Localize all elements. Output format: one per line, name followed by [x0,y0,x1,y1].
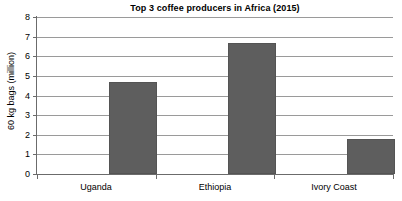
y-tick-label: 4 [16,92,30,101]
y-tick-mark [33,37,37,38]
y-tick-label: 8 [16,13,30,22]
y-tick-mark [33,56,37,57]
gridline [37,56,393,57]
bar-uganda [109,82,157,174]
gridline [37,37,393,38]
y-tick-mark [33,17,37,18]
y-tick-mark [33,76,37,77]
gridline [37,115,393,116]
gridline [37,96,393,97]
bar-ivory-coast [347,139,395,174]
chart-title: Top 3 coffee producers in Africa (2015) [37,3,393,14]
y-tick-label: 6 [16,52,30,61]
y-tick-mark [33,115,37,116]
bar-ethiopia [228,43,276,174]
x-tick-label: Ethiopia [165,182,265,193]
gridline [37,135,393,136]
y-tick-label: 3 [16,111,30,120]
x-tick-label: Ivory Coast [284,182,384,193]
y-tick-label: 5 [16,72,30,81]
x-tick-mark [37,175,38,179]
y-tick-label: 0 [16,170,30,179]
gridline [37,76,393,77]
y-tick-mark [33,154,37,155]
x-tick-mark [393,175,394,179]
y-axis-title: 60 kg bags (million) [6,16,16,166]
bar-chart: Top 3 coffee producers in Africa (2015) … [0,0,402,201]
plot-area [37,17,393,174]
gridline [37,154,393,155]
gridline [37,17,393,18]
y-tick-label: 2 [16,131,30,140]
y-tick-mark [33,135,37,136]
y-tick-label: 1 [16,150,30,159]
y-tick-label: 7 [16,33,30,42]
x-tick-label: Uganda [46,182,146,193]
x-tick-mark [156,175,157,179]
x-tick-mark [274,175,275,179]
y-tick-mark [33,96,37,97]
x-axis-line [36,174,394,175]
